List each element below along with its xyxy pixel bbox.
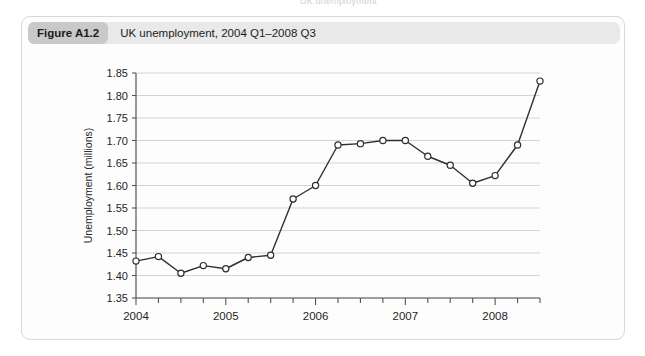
cut-off-running-header: UK unemployment [300, 0, 620, 6]
data-point [245, 254, 251, 260]
x-tick-label: 2008 [482, 310, 508, 322]
data-point [514, 142, 520, 148]
grid-lines [136, 73, 540, 298]
data-point [290, 196, 296, 202]
data-point [425, 153, 431, 159]
y-tick-label: 1.60 [107, 180, 128, 192]
y-tick-label: 1.40 [107, 270, 128, 282]
y-axis-ticks: 1.351.401.451.501.551.601.651.701.751.80… [107, 67, 136, 304]
figure-header: Figure A1.2 UK unemployment, 2004 Q1–200… [28, 22, 620, 44]
y-axis-title: Unemployment (millions) [82, 128, 94, 244]
data-point [470, 180, 476, 186]
data-point [223, 266, 229, 272]
unemployment-series-line [136, 81, 540, 273]
y-tick-label: 1.80 [107, 90, 128, 102]
data-point [312, 182, 318, 188]
data-point-markers [133, 78, 543, 276]
data-point [133, 258, 139, 264]
y-axis-label: Unemployment (millions) [82, 128, 94, 244]
x-axis-ticks: 20042005200620072008 [123, 298, 540, 322]
x-tick-label: 2006 [303, 310, 329, 322]
data-point [178, 270, 184, 276]
y-tick-label: 1.55 [107, 202, 128, 214]
y-tick-label: 1.45 [107, 247, 128, 259]
x-tick-label: 2004 [123, 310, 149, 322]
data-point [447, 162, 453, 168]
data-point [357, 141, 363, 147]
data-point [380, 137, 386, 143]
y-tick-label: 1.75 [107, 112, 128, 124]
data-point [268, 252, 274, 258]
figure-caption: UK unemployment, 2004 Q1–2008 Q3 [108, 27, 316, 39]
line-chart: 1.351.401.451.501.551.601.651.701.751.80… [28, 47, 620, 335]
y-tick-label: 1.50 [107, 225, 128, 237]
x-tick-label: 2007 [393, 310, 419, 322]
figure-card: Figure A1.2 UK unemployment, 2004 Q1–200… [21, 16, 625, 340]
figure-number-badge: Figure A1.2 [28, 22, 108, 44]
data-point [155, 254, 161, 260]
y-tick-label: 1.85 [107, 67, 128, 79]
data-point [537, 78, 543, 84]
y-tick-label: 1.35 [107, 292, 128, 304]
data-point [200, 263, 206, 269]
x-tick-label: 2005 [213, 310, 239, 322]
chart-plot-area: 1.351.401.451.501.551.601.651.701.751.80… [28, 47, 620, 335]
y-tick-label: 1.65 [107, 157, 128, 169]
y-tick-label: 1.70 [107, 135, 128, 147]
data-point [335, 142, 341, 148]
data-point [402, 137, 408, 143]
data-point [492, 173, 498, 179]
